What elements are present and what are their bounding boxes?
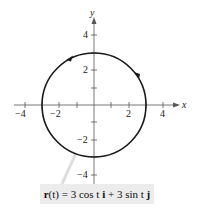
- y-tick-label: 4: [83, 29, 88, 40]
- caption-t-arg: (t) = 3 cos t: [49, 188, 103, 200]
- y-axis-arrow-icon: [92, 17, 97, 24]
- caption-mid: + 3 sin t: [105, 188, 146, 200]
- x-axis-label: x: [181, 99, 187, 110]
- y-tick-label: −4: [77, 169, 88, 180]
- graph-canvas: −4 −2 2 4 x 4 2 −2 −4 y: [0, 0, 198, 211]
- x-tick-label: −2: [50, 108, 61, 119]
- x-tick-label: 2: [126, 108, 131, 119]
- caption-pointer: [62, 153, 76, 184]
- y-axis-label: y: [89, 7, 95, 18]
- caption-j: j: [147, 188, 151, 200]
- y-tick-label: −2: [77, 134, 88, 145]
- y-tick-label: 2: [83, 64, 88, 75]
- x-tick-label: −4: [15, 108, 26, 119]
- orientation-arrow-icon: [134, 72, 140, 79]
- x-axis-arrow-icon: [173, 103, 180, 108]
- x-tick-label: 4: [160, 108, 165, 119]
- equation-caption: r(t) = 3 cos t i + 3 sin t j: [40, 184, 154, 204]
